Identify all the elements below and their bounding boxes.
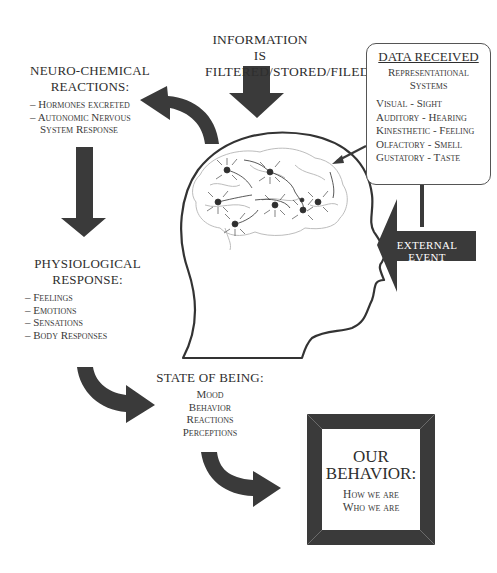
list-item: Autonomic Nervous [30, 111, 150, 124]
list-item: Kinesthetic - Feeling [376, 124, 490, 138]
our-behavior-lines: How we are Who we are [322, 488, 420, 514]
information-line2: FILTERED/STORED/FILED [205, 64, 315, 80]
external-event-label: EXTERNAL EVENT [378, 239, 476, 263]
list-item: Body Responses [25, 329, 150, 342]
information-line1: INFORMATION IS [205, 32, 315, 64]
list-item: Hormones excreted [30, 98, 150, 111]
list-item: Olfactory - Smell [376, 138, 490, 152]
head-outline-icon [181, 133, 384, 358]
list-item: Visual - Sight [376, 97, 490, 111]
neuro-title-line1: NEURO-CHEMICAL [30, 63, 150, 79]
curved-arrow-to-state-icon [77, 367, 155, 423]
data-to-head-arrow-icon [332, 146, 366, 164]
physio-title-line2: RESPONSE: [25, 272, 150, 288]
behavior-title-line2: BEHAVIOR: [322, 465, 420, 482]
behavior-line2: Who we are [322, 501, 420, 514]
physiological-list: Feelings Emotions Sensations Body Respon… [25, 291, 150, 341]
curved-arrow-to-neuro-icon [140, 86, 219, 144]
list-item: Perceptions [150, 426, 270, 439]
curved-arrow-to-behavior-icon [201, 452, 281, 507]
list-item: Gustatory - Taste [376, 151, 490, 165]
list-item: Auditory - Hearing [376, 111, 490, 125]
list-item: Emotions [25, 304, 150, 317]
list-item: System Response [30, 123, 150, 136]
data-received-subtitle: Representational Systems [367, 66, 490, 92]
state-of-being-title: STATE OF BEING: [150, 370, 270, 386]
physiological-title: PHYSIOLOGICAL RESPONSE: [25, 256, 150, 288]
arrow-down-physiological-icon [61, 147, 106, 237]
our-behavior-title: OUR BEHAVIOR: [322, 448, 420, 482]
neuro-title-line2: REACTIONS: [30, 79, 150, 95]
state-of-being-section: STATE OF BEING: Mood Behavior Reactions … [150, 370, 270, 438]
neuro-chemical-title: NEURO-CHEMICAL REACTIONS: [30, 63, 150, 95]
data-received-title: DATA RECEIVED [367, 50, 490, 64]
subtitle-line2: Systems [367, 79, 490, 92]
behavior-line1: How we are [322, 488, 420, 501]
representational-systems-list: Visual - Sight Auditory - Hearing Kinest… [376, 97, 490, 165]
subtitle-line1: Representational [367, 66, 490, 79]
connector-line [420, 185, 424, 227]
list-item: Behavior [150, 401, 270, 414]
behavior-title-line1: OUR [322, 448, 420, 465]
neuro-chemical-list: Hormones excreted Autonomic Nervous Syst… [30, 98, 150, 136]
physiological-section: PHYSIOLOGICAL RESPONSE: Feelings Emotion… [25, 256, 150, 341]
list-item: Feelings [25, 291, 150, 304]
list-item: Reactions [150, 413, 270, 426]
list-item: Mood [150, 388, 270, 401]
neuro-chemical-section: NEURO-CHEMICAL REACTIONS: Hormones excre… [30, 63, 150, 136]
information-label: INFORMATION IS FILTERED/STORED/FILED [205, 32, 315, 80]
neuron-network-icon [207, 158, 334, 236]
our-behavior-section: OUR BEHAVIOR: How we are Who we are [322, 448, 420, 514]
physio-title-line1: PHYSIOLOGICAL [25, 256, 150, 272]
data-received-box: DATA RECEIVED Representational Systems V… [366, 43, 491, 185]
list-item: Sensations [25, 316, 150, 329]
state-of-being-list: Mood Behavior Reactions Perceptions [150, 388, 270, 438]
